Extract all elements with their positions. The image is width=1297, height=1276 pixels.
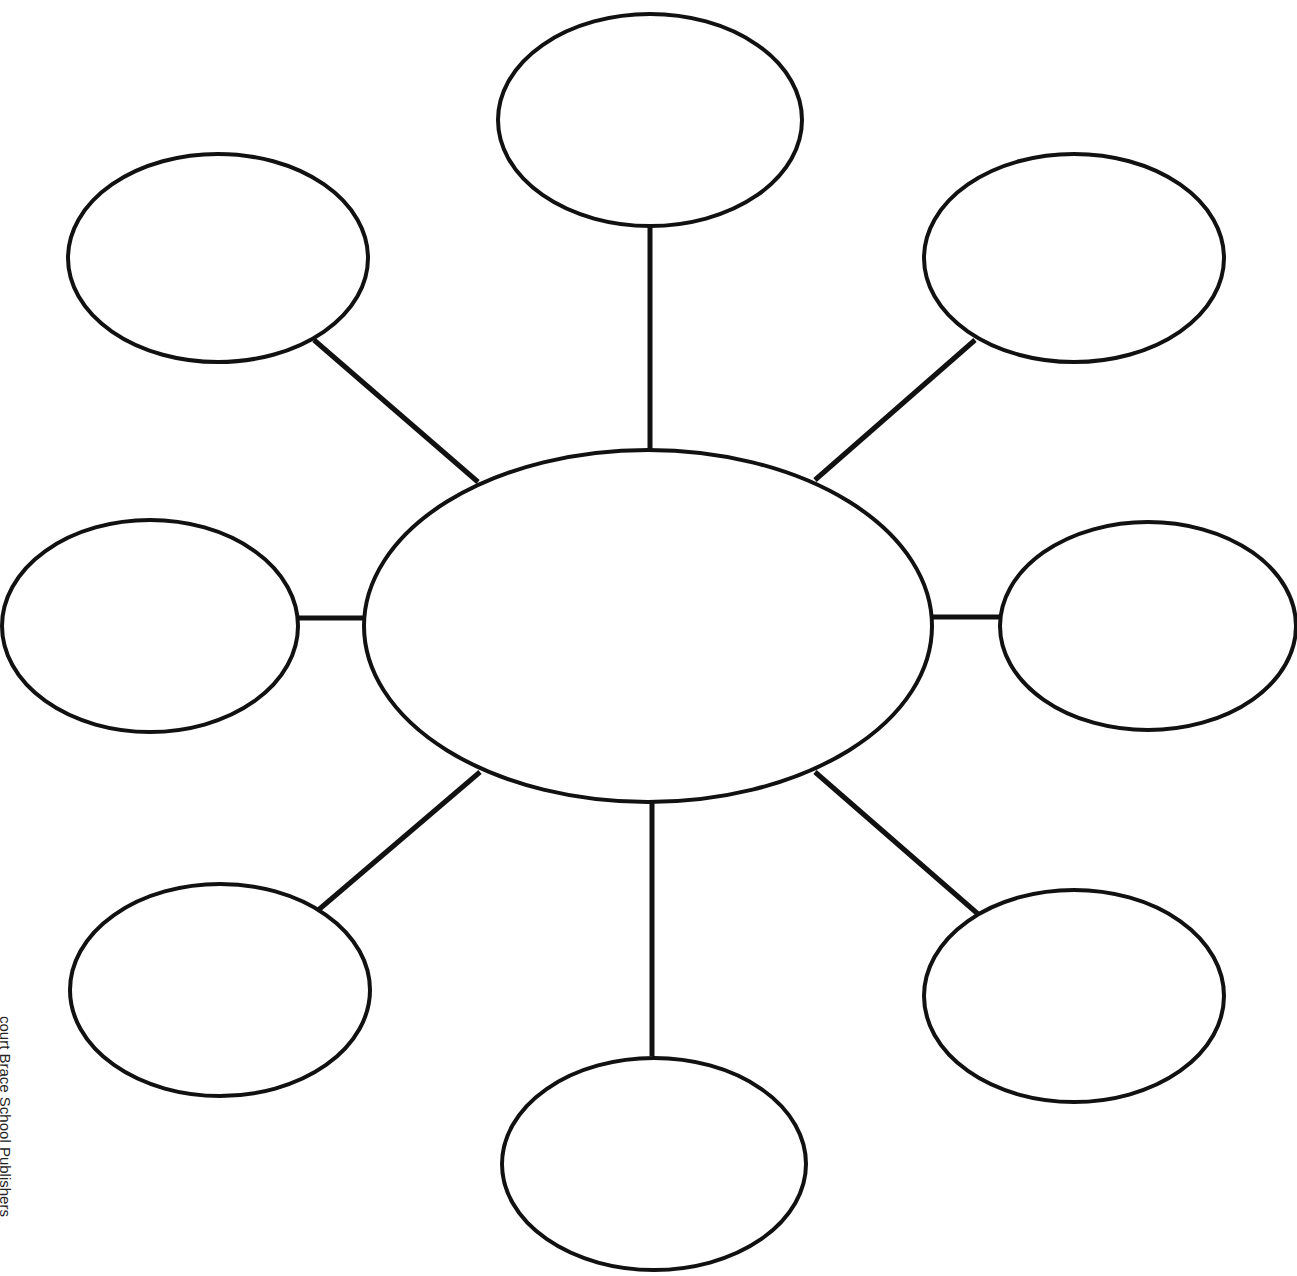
bubble-bottom-right-connector (815, 772, 978, 914)
bubble-top-left (68, 154, 368, 362)
bubble-bottom-right (924, 890, 1224, 1102)
bubble-top-right-connector (815, 340, 975, 480)
bubble-top (498, 14, 802, 226)
bubble-top-right (924, 154, 1224, 362)
publisher-credit: court Brace School Publishers (0, 1016, 14, 1217)
bubble-bottom-left-connector (316, 772, 480, 912)
bubbles (2, 14, 1296, 1270)
bubble-right (1000, 522, 1296, 730)
bubble-top-left-connector (314, 340, 478, 482)
bubble-bottom (502, 1058, 806, 1270)
bubble-bottom-left (70, 884, 370, 1096)
center-bubble (364, 450, 932, 802)
bubble-map-diagram (0, 0, 1297, 1276)
bubble-left (2, 520, 298, 732)
